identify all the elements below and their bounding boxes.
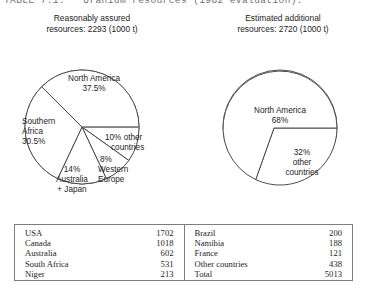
left-label-other-countries-line2: countries	[111, 143, 144, 152]
table-cell-label: France	[195, 248, 218, 258]
table-cell-value: 121	[329, 248, 342, 258]
table-row: Canada 1018	[25, 238, 174, 248]
table-cell-label: South Africa	[25, 259, 69, 269]
table-cell-label: Namibia	[195, 238, 225, 248]
table-row: USA 1702	[25, 228, 174, 238]
right-pie-chart: North America 68% 32% other countries	[223, 70, 337, 185]
left-label-western-europe-line1: 8%	[100, 155, 112, 164]
right-label-north-america-line1: North America	[254, 106, 306, 115]
left-label-other-countries-line1: 10% other	[105, 133, 143, 142]
table-cell-label: Niger	[25, 269, 45, 279]
table-cell-value: 200	[329, 228, 342, 238]
table-row: France 121	[195, 248, 343, 258]
table-cell-label: Canada	[25, 238, 51, 248]
table-cell-label: Other countries	[195, 259, 248, 269]
table-row: South Africa 531	[25, 259, 174, 269]
table-cell-value: 1702	[156, 228, 173, 238]
resources-table: USA 1702 Canada 1018 Australia 602 South…	[14, 224, 353, 281]
left-label-western-europe-line3: Europe	[98, 175, 125, 184]
left-label-southern-africa-line3: 30.5%	[22, 137, 45, 146]
left-label-southern-africa-line2: Africa	[22, 127, 43, 136]
table-cell-label: USA	[25, 228, 42, 238]
table-row: Australia 602	[25, 248, 174, 258]
left-label-australia-japan-line2: Australia	[56, 175, 88, 184]
left-pie-chart: North America 37.5% Southern Africa 30.5…	[22, 70, 144, 194]
table-cell-value: 602	[161, 248, 174, 258]
table-cell-label: Australia	[25, 248, 57, 258]
resources-table-left-column: USA 1702 Canada 1018 Australia 602 South…	[15, 225, 184, 280]
left-label-western-europe-line2: Western	[98, 165, 129, 174]
table-row: Brazil 200	[195, 228, 343, 238]
right-label-other-countries-line1: 32%	[294, 148, 310, 157]
table-row: Other countries 438	[195, 259, 343, 269]
table-row: Niger 213	[25, 269, 174, 279]
left-label-north-america-line2: 37.5%	[82, 84, 105, 93]
table-cell-value: 438	[329, 259, 342, 269]
table-cell-label: Total	[195, 269, 213, 279]
table-cell-value: 531	[161, 259, 174, 269]
table-cell-label: Brazil	[195, 228, 216, 238]
right-label-other-countries-line2: other	[293, 158, 312, 167]
table-cell-value: 1018	[156, 238, 173, 248]
left-label-australia-japan-line3: + Japan	[57, 185, 87, 194]
table-row: Total 5013	[195, 269, 343, 279]
table-cell-value: 5013	[325, 269, 342, 279]
right-label-north-america-line2: 68%	[272, 116, 288, 125]
table-row: Namibia 188	[195, 238, 343, 248]
left-label-north-america-line1: North America	[68, 74, 120, 83]
left-label-southern-africa-line1: Southern	[22, 117, 56, 126]
left-label-australia-japan-line1: 14%	[64, 165, 80, 174]
resources-table-right-column: Brazil 200 Namibia 188 France 121 Other …	[184, 225, 353, 280]
table-cell-value: 213	[161, 269, 174, 279]
right-label-other-countries-line3: countries	[285, 168, 318, 177]
table-cell-value: 188	[329, 238, 342, 248]
